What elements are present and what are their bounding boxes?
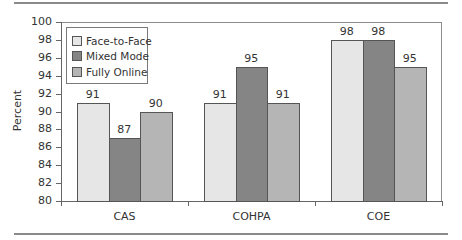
y-tick [56,94,61,95]
bar [77,103,110,202]
legend-item-mixed-mode: Mixed Mode [72,49,149,63]
legend-label: Mixed Mode [86,50,149,62]
y-tick [56,112,61,113]
x-tick-label: COHPA [188,210,315,223]
bar [236,67,269,202]
y-tick-label: 92 [24,88,52,100]
y-axis-title: Percent [11,86,24,136]
y-tick-label: 82 [24,177,52,189]
y-tick [56,76,61,77]
legend-label: Face-to-Face [86,35,152,47]
y-tick-label: 98 [24,34,52,46]
y-tick [56,22,61,23]
y-tick-label: 86 [24,141,52,153]
bar-value-label: 90 [140,97,171,110]
bar [267,103,300,202]
y-tick [56,129,61,130]
bar [140,112,173,203]
y-tick [56,58,61,59]
bar-value-label: 87 [109,123,140,136]
y-tick-label: 90 [24,106,52,118]
y-tick [56,165,61,166]
bar-value-label: 91 [267,88,298,101]
x-tick [442,201,443,206]
bar-value-label: 98 [331,25,362,38]
y-tick-label: 96 [24,52,52,64]
bar [204,103,237,202]
bar-value-label: 98 [363,25,394,38]
bar-value-label: 95 [394,52,425,65]
y-tick [56,40,61,41]
bar-value-label: 91 [77,88,108,101]
x-tick-label: COE [315,210,442,223]
y-tick-label: 84 [24,159,52,171]
bottom-rule [14,233,448,235]
legend-item-face-to-face: Face-to-Face [72,34,152,48]
bar [394,67,427,202]
y-tick [56,147,61,148]
legend-swatch [72,51,82,61]
legend-swatch [72,36,82,46]
y-tick [56,183,61,184]
x-tick [315,201,316,206]
legend: Face-to-Face Mixed Mode Fully Online [66,27,148,84]
bar [109,138,142,202]
bar-value-label: 91 [204,88,235,101]
y-axis [61,22,62,206]
legend-swatch [72,67,82,77]
bar [363,40,396,202]
y-tick-label: 88 [24,123,52,135]
top-rule [14,2,448,4]
y-tick [56,201,61,202]
y-tick-label: 100 [24,16,52,28]
bar [331,40,364,202]
bar-value-label: 95 [236,52,267,65]
y-tick-label: 80 [24,195,52,207]
x-tick [188,201,189,206]
legend-label: Fully Online [86,66,147,78]
x-tick-label: CAS [61,210,188,223]
y-tick-label: 94 [24,70,52,82]
legend-item-fully-online: Fully Online [72,65,147,79]
